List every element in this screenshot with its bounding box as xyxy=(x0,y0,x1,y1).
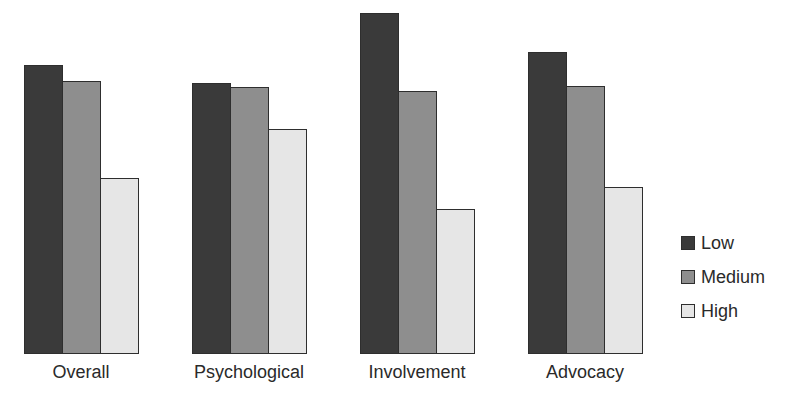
x-axis-label: Overall xyxy=(1,362,161,383)
bar-advocacy-high xyxy=(604,187,643,354)
legend: Low Medium High xyxy=(681,226,765,328)
bar-involvement-medium xyxy=(398,91,437,354)
bar-advocacy-low xyxy=(528,52,567,354)
legend-swatch-medium xyxy=(681,270,695,284)
bar-psychological-medium xyxy=(230,87,269,354)
bar-advocacy-medium xyxy=(566,86,605,354)
grouped-bar-chart: OverallPsychologicalInvolvementAdvocacy xyxy=(0,0,793,396)
legend-label: Low xyxy=(701,233,734,254)
bar-overall-high xyxy=(100,178,139,354)
bar-psychological-high xyxy=(268,129,307,354)
bar-psychological-low xyxy=(192,83,231,354)
legend-swatch-low xyxy=(681,236,695,250)
x-axis-label: Involvement xyxy=(337,362,497,383)
legend-label: High xyxy=(701,301,738,322)
legend-swatch-high xyxy=(681,304,695,318)
bar-involvement-high xyxy=(436,209,475,354)
legend-label: Medium xyxy=(701,267,765,288)
bar-overall-medium xyxy=(62,81,101,354)
x-axis-label: Advocacy xyxy=(505,362,665,383)
x-axis-label: Psychological xyxy=(169,362,329,383)
legend-item-low: Low xyxy=(681,226,765,260)
legend-item-high: High xyxy=(681,294,765,328)
bar-involvement-low xyxy=(360,13,399,354)
legend-item-medium: Medium xyxy=(681,260,765,294)
bar-overall-low xyxy=(24,65,63,354)
